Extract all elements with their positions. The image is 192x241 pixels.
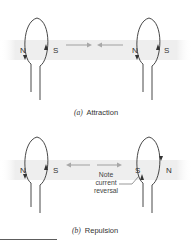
- svg-text:current: current: [95, 179, 116, 186]
- svg-text:reversal: reversal: [94, 187, 119, 194]
- pole-label: N: [20, 166, 26, 175]
- svg-text:Note: Note: [99, 171, 114, 178]
- pole-label: N: [166, 166, 172, 175]
- panel-attraction: N S N S (a) Attraction: [0, 18, 192, 117]
- pole-label: S: [53, 166, 58, 175]
- pole-label: S: [135, 166, 140, 175]
- pole-label: S: [53, 46, 58, 55]
- magnetic-loops-diagram: N S N S (a) Attraction: [0, 0, 192, 241]
- field-band: [0, 160, 192, 180]
- pole-label: S: [164, 46, 169, 55]
- panel-repulsion: N S S N Note current reversal (b) Repuls…: [0, 137, 192, 235]
- pole-label: N: [132, 46, 138, 55]
- caption-a: (a) Attraction: [74, 108, 118, 117]
- pole-label: N: [20, 46, 26, 55]
- caption-b: (b) Repulsion: [72, 226, 118, 235]
